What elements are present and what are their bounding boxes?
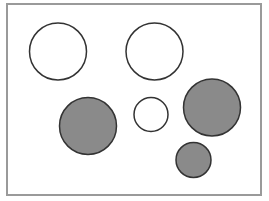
circle-1-white [30, 23, 87, 80]
circles-canvas [0, 0, 269, 201]
circle-6-gray [176, 143, 211, 178]
circle-4-white [134, 98, 168, 132]
circle-3-gray [60, 98, 117, 155]
circle-5-gray [184, 79, 241, 136]
circle-2-white [126, 23, 183, 80]
